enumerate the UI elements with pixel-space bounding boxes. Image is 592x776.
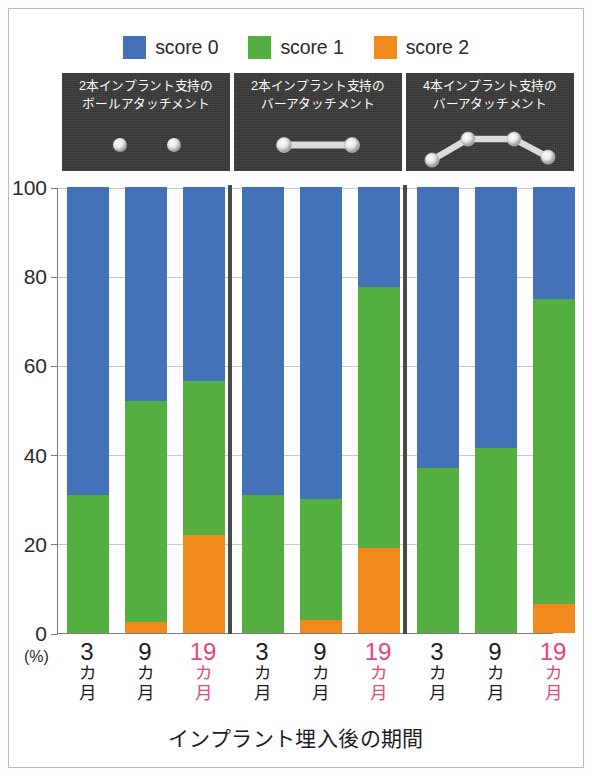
bar-segment-score-1 (417, 468, 459, 633)
x-axis-label-unit: カ 月 (468, 664, 522, 703)
y-axis-label: 80 (24, 265, 47, 289)
y-axis-tick (51, 544, 58, 545)
panel-two-implant-bar: 2本インプラント支持の バーアタッチメント (234, 73, 402, 171)
bar-segment-score-1 (67, 495, 109, 633)
x-axis-label-unit: カ 月 (235, 664, 289, 703)
x-axis-label: 3カ 月 (60, 640, 114, 704)
group-separator (228, 185, 232, 634)
bar-segment-score-2 (533, 604, 575, 633)
y-axis-tick (51, 634, 58, 635)
panel-four-implant-bar: 4本インプラント支持の バーアタッチメント (406, 73, 574, 171)
x-axis-label-value: 3 (235, 640, 289, 664)
bar-segment-score-0 (183, 187, 225, 381)
stacked-bar (125, 187, 167, 633)
bar-segment-score-0 (417, 187, 459, 468)
stacked-bar (417, 187, 459, 633)
chart-legend: score 0score 1score 2 (0, 36, 592, 59)
two-implant-bar-icon (234, 119, 402, 171)
x-axis-label-value: 19 (526, 640, 580, 664)
x-axis-label: 9カ 月 (118, 640, 172, 704)
x-axis-label-unit: カ 月 (526, 664, 580, 703)
x-axis-label: 9カ 月 (468, 640, 522, 704)
y-axis-tick (51, 366, 58, 367)
bar-segment-score-1 (125, 401, 167, 622)
percent-unit-label: (%) (24, 648, 49, 666)
x-axis-label: 19カ 月 (176, 640, 230, 704)
bar-segment-score-0 (125, 187, 167, 401)
x-axis-label-unit: カ 月 (60, 664, 114, 703)
stacked-bar (183, 187, 225, 633)
stacked-bar (242, 187, 284, 633)
bar-segment-score-0 (358, 187, 400, 287)
x-axis-label-value: 9 (468, 640, 522, 664)
x-axis-label: 19カ 月 (351, 640, 405, 704)
y-axis-label: 40 (24, 444, 47, 468)
x-axis-label-unit: カ 月 (176, 664, 230, 703)
plot-area: 020406080100 (57, 188, 553, 634)
x-axis-label-unit: カ 月 (410, 664, 464, 703)
bar-segment-score-1 (475, 448, 517, 633)
x-axis-label-unit: カ 月 (293, 664, 347, 703)
legend-label: score 1 (280, 38, 343, 58)
x-axis-title: インプラント埋入後の期間 (0, 722, 592, 752)
y-axis-label: 0 (35, 622, 47, 646)
x-axis-label-unit: カ 月 (118, 664, 172, 703)
panel-3-caption: 4本インプラント支持の バーアタッチメント (406, 73, 574, 113)
x-axis-label-value: 19 (176, 640, 230, 664)
chart-figure: score 0score 1score 2 2本インプラント支持の ボールアタッ… (0, 0, 592, 776)
bar-segment-score-1 (300, 499, 342, 619)
x-axis-label-value: 3 (410, 640, 464, 664)
bar-segment-score-0 (300, 187, 342, 499)
x-axis-label-value: 9 (118, 640, 172, 664)
bar-segment-score-1 (183, 381, 225, 535)
stacked-bar (67, 187, 109, 633)
y-axis-label: 20 (24, 533, 47, 557)
bar-segment-score-2 (300, 620, 342, 633)
bar-segment-score-0 (67, 187, 109, 495)
legend-item: score 0 (123, 36, 218, 59)
stacked-bar (533, 187, 575, 633)
legend-label: score 0 (155, 38, 218, 58)
x-axis-label: 9カ 月 (293, 640, 347, 704)
y-axis-tick (51, 455, 58, 456)
bar-segment-score-1 (533, 299, 575, 605)
y-axis-tick (51, 277, 58, 278)
x-axis-label-value: 3 (60, 640, 114, 664)
x-axis-label: 19カ 月 (526, 640, 580, 704)
legend-swatch-blue (123, 36, 146, 59)
group-separator (403, 185, 407, 634)
x-axis-label-value: 9 (293, 640, 347, 664)
stacked-bar (358, 187, 400, 633)
x-axis-label: 3カ 月 (235, 640, 289, 704)
bar-segment-score-0 (242, 187, 284, 495)
y-axis-label: 60 (24, 354, 47, 378)
bar-segment-score-0 (533, 187, 575, 299)
panel-ball-attachment: 2本インプラント支持の ボールアタッチメント (62, 73, 230, 171)
y-axis-label: 100 (12, 176, 47, 200)
two-ball-attachments-icon (62, 119, 230, 171)
x-axis-label: 3カ 月 (410, 640, 464, 704)
bar-segment-score-1 (242, 495, 284, 633)
x-axis-label-value: 19 (351, 640, 405, 664)
bar-segment-score-1 (358, 287, 400, 548)
legend-item: score 2 (374, 36, 469, 59)
legend-swatch-orange (374, 36, 397, 59)
y-axis-tick (51, 188, 58, 189)
legend-label: score 2 (406, 38, 469, 58)
panel-1-caption: 2本インプラント支持の ボールアタッチメント (62, 73, 230, 113)
bar-segment-score-2 (125, 622, 167, 633)
bar-segment-score-2 (358, 548, 400, 633)
legend-item: score 1 (248, 36, 343, 59)
x-axis-label-unit: カ 月 (351, 664, 405, 703)
panel-2-caption: 2本インプラント支持の バーアタッチメント (234, 73, 402, 113)
bar-segment-score-2 (183, 535, 225, 633)
stacked-bar (300, 187, 342, 633)
four-implant-bar-icon (406, 119, 574, 171)
stacked-bar (475, 187, 517, 633)
bar-segment-score-0 (475, 187, 517, 448)
legend-swatch-green (248, 36, 271, 59)
